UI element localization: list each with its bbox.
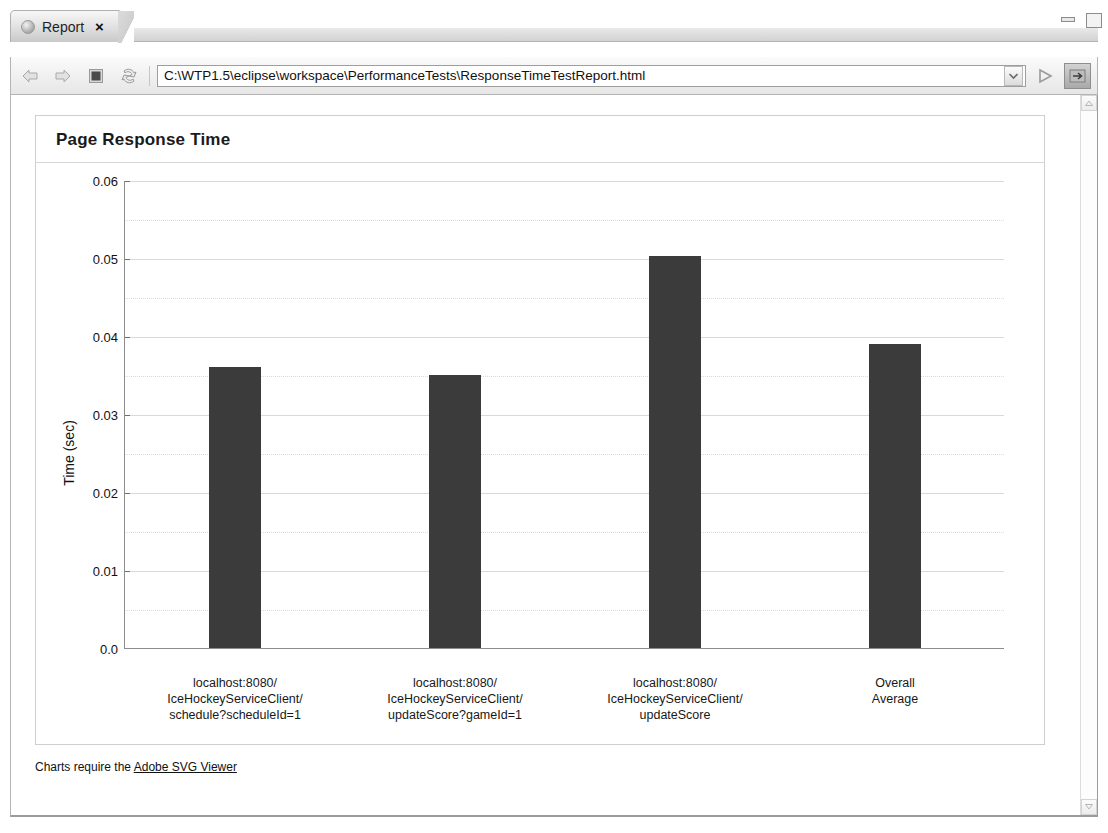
y-tick-label: 0.0 <box>100 642 118 657</box>
x-tick-label-line: Average <box>790 691 1000 707</box>
footer-note: Charts require the Adobe SVG Viewer <box>35 760 237 774</box>
x-tick-label-line: schedule?scheduleId=1 <box>130 707 340 723</box>
report-panel: Page Response Time Time (sec) 0.00.010.0… <box>35 115 1045 745</box>
scroll-up-icon[interactable] <box>1081 95 1097 111</box>
gridline-major <box>125 259 1004 260</box>
x-tick-label-line: updateScore <box>570 707 780 723</box>
window-controls <box>1059 12 1102 27</box>
toolbar-divider <box>149 66 150 86</box>
gridline-minor <box>125 298 1004 299</box>
url-field[interactable]: C:\WTP1.5\eclipse\workspace\PerformanceT… <box>157 65 1026 87</box>
eclipse-report-editor: Report × <box>0 0 1108 833</box>
x-tick-label-line: Overall <box>790 675 1000 691</box>
scroll-down-icon[interactable] <box>1081 799 1097 815</box>
tab-strip-background <box>10 28 1098 42</box>
maximize-button[interactable] <box>1085 12 1102 27</box>
x-tick-label-line: IceHockeyServiceClient/ <box>570 691 780 707</box>
tab-report-label: Report <box>42 19 84 35</box>
back-icon[interactable] <box>17 64 43 88</box>
go-button[interactable] <box>1033 64 1057 88</box>
minimize-button[interactable] <box>1059 12 1076 27</box>
editor-tab-strip: Report × <box>10 10 1098 42</box>
y-tick-mark <box>125 337 130 338</box>
x-tick-label: OverallAverage <box>790 675 1000 707</box>
y-axis-ticks: 0.00.010.020.030.040.050.06 <box>70 181 118 649</box>
browser-content-area: Page Response Time Time (sec) 0.00.010.0… <box>10 95 1098 817</box>
stop-icon[interactable] <box>83 64 109 88</box>
y-tick-mark <box>125 181 130 182</box>
gridline-minor <box>125 220 1004 221</box>
tab-report[interactable]: Report × <box>10 10 121 42</box>
y-tick-mark <box>125 571 130 572</box>
x-tick-label-line: localhost:8080/ <box>130 675 340 691</box>
adobe-svg-viewer-link[interactable]: Adobe SVG Viewer <box>134 760 237 774</box>
page-title: Page Response Time <box>36 116 1044 163</box>
forward-icon[interactable] <box>50 64 76 88</box>
x-tick-label-line: IceHockeyServiceClient/ <box>130 691 340 707</box>
y-tick-label: 0.02 <box>93 486 118 501</box>
bar <box>209 367 261 648</box>
browser-toolbar: C:\WTP1.5\eclipse\workspace\PerformanceT… <box>10 57 1098 95</box>
plot-area: localhost:8080/IceHockeyServiceClient/sc… <box>124 181 1004 649</box>
y-tick-label: 0.05 <box>93 252 118 267</box>
x-tick-label-line: updateScore?gameId=1 <box>350 707 560 723</box>
html-document: Page Response Time Time (sec) 0.00.010.0… <box>11 95 1080 815</box>
close-icon[interactable]: × <box>95 19 104 34</box>
bar <box>649 256 701 648</box>
x-tick-label: localhost:8080/IceHockeyServiceClient/sc… <box>130 675 340 723</box>
x-tick-label-line: localhost:8080/ <box>350 675 560 691</box>
refresh-icon[interactable] <box>116 64 142 88</box>
x-tick-label-line: IceHockeyServiceClient/ <box>350 691 560 707</box>
globe-icon <box>21 20 35 34</box>
x-tick-label: localhost:8080/IceHockeyServiceClient/up… <box>570 675 780 723</box>
bar <box>869 344 921 648</box>
gridline-major <box>125 181 1004 182</box>
gridline-major <box>125 337 1004 338</box>
x-tick-label: localhost:8080/IceHockeyServiceClient/up… <box>350 675 560 723</box>
response-time-bar-chart: Time (sec) 0.00.010.020.030.040.050.06 l… <box>36 163 1046 743</box>
y-tick-mark <box>125 493 130 494</box>
footer-prefix: Charts require the <box>35 760 134 774</box>
vertical-scrollbar[interactable] <box>1080 95 1097 815</box>
y-tick-mark <box>125 415 130 416</box>
y-tick-mark <box>125 259 130 260</box>
x-tick-label-line: localhost:8080/ <box>570 675 780 691</box>
bar <box>429 375 481 648</box>
open-external-browser-button[interactable] <box>1064 63 1091 89</box>
y-tick-label: 0.01 <box>93 564 118 579</box>
y-tick-label: 0.06 <box>93 174 118 189</box>
y-tick-label: 0.03 <box>93 408 118 423</box>
url-input[interactable]: C:\WTP1.5\eclipse\workspace\PerformanceT… <box>164 68 1004 83</box>
y-tick-label: 0.04 <box>93 330 118 345</box>
chevron-down-icon[interactable] <box>1004 66 1023 86</box>
